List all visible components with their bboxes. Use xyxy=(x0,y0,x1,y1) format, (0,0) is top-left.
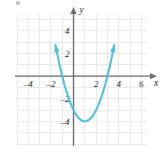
x-tick-label: 6 xyxy=(139,79,144,89)
parabola-figure: –4–224642–2–4xy xyxy=(0,0,160,149)
y-tick-label: 4 xyxy=(65,26,70,36)
x-tick-label: 2 xyxy=(94,79,99,89)
corner-artifact xyxy=(16,1,20,5)
x-tick-label: 4 xyxy=(116,79,121,89)
x-axis-label: x xyxy=(153,78,159,88)
x-tick-label: –4 xyxy=(23,79,34,89)
x-tick-label: –2 xyxy=(45,79,56,89)
coordinate-plane: –4–224642–2–4xy xyxy=(0,0,160,149)
y-tick-label: –4 xyxy=(60,117,71,127)
y-axis-label: y xyxy=(79,5,85,15)
y-tick-label: 2 xyxy=(65,49,70,59)
